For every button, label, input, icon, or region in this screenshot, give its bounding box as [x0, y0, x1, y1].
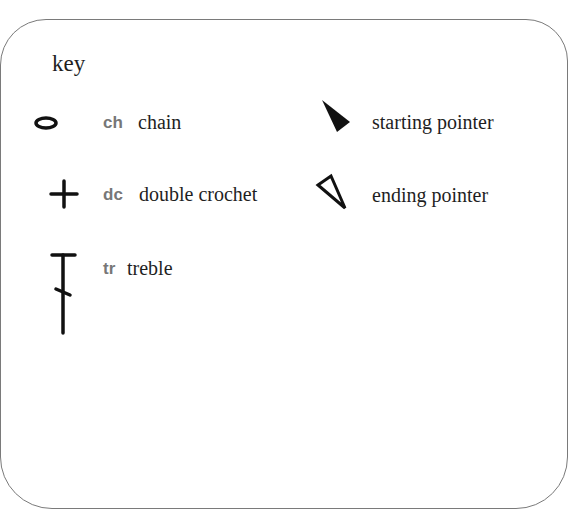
- double-crochet-abbr: dc: [103, 184, 123, 206]
- key-heading: key: [52, 50, 85, 78]
- key-panel: [0, 19, 568, 509]
- double-crochet-plus-icon: [50, 180, 78, 208]
- treble-abbr: tr: [103, 258, 115, 280]
- treble-label: treble: [127, 256, 173, 280]
- ending-pointer-label: ending pointer: [372, 183, 488, 207]
- ending-pointer-icon: [314, 172, 350, 212]
- double-crochet-label: double crochet: [139, 182, 257, 206]
- starting-pointer-label: starting pointer: [372, 110, 494, 134]
- chain-oval-icon: [33, 115, 59, 131]
- treble-stitch-icon: [50, 252, 78, 336]
- chain-label: chain: [138, 110, 181, 134]
- chain-abbr: ch: [103, 112, 123, 134]
- starting-pointer-icon: [318, 96, 354, 136]
